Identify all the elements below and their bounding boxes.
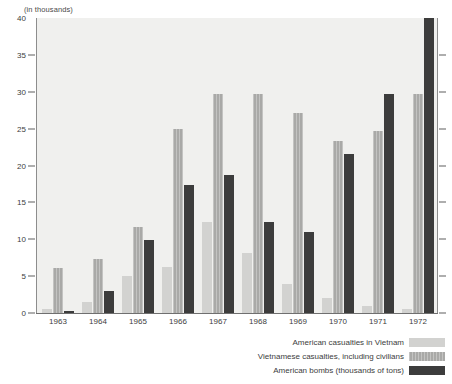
axis-line-baseline: [36, 313, 438, 314]
bar: [162, 267, 172, 313]
y-axis-tick-mark-right: [439, 128, 446, 129]
bar-group: [162, 18, 194, 313]
bar: [402, 309, 412, 313]
y-axis-caption: (in thousands): [24, 5, 73, 14]
y-axis-tick-label: 30: [2, 87, 26, 96]
bar: [424, 18, 434, 313]
y-axis-tick-mark: [28, 239, 35, 240]
y-axis-tick-label: 20: [2, 161, 26, 170]
bar: [122, 276, 132, 313]
axis-line-right: [437, 18, 438, 314]
bar: [242, 253, 252, 313]
legend-swatch: [409, 338, 445, 347]
y-axis-tick-label: 25: [2, 124, 26, 133]
y-axis-tick-mark-right: [439, 202, 446, 203]
legend-item-label: American bombs (thousands of tons): [273, 366, 404, 375]
bar: [64, 311, 74, 313]
bar: [224, 175, 234, 313]
bar-group: [362, 18, 394, 313]
y-axis-tick-mark: [28, 54, 35, 55]
chart-legend: American casualties in VietnamVietnamese…: [200, 336, 445, 378]
bar: [384, 94, 394, 313]
bar-group: [402, 18, 434, 313]
y-axis-tick-mark-right: [439, 313, 446, 314]
bar: [104, 291, 114, 313]
bar: [82, 302, 92, 313]
bar: [322, 298, 332, 313]
y-axis-tick-mark-right: [439, 165, 446, 166]
legend-item: American bombs (thousands of tons): [200, 364, 445, 377]
legend-item: American casualties in Vietnam: [200, 336, 445, 349]
y-axis-tick-mark-right: [439, 239, 446, 240]
y-axis-tick-label: 0: [2, 309, 26, 318]
legend-swatch: [409, 352, 445, 361]
legend-swatch: [409, 366, 445, 375]
bar: [53, 268, 63, 313]
y-axis-tick-label: 10: [2, 235, 26, 244]
bar-group: [122, 18, 154, 313]
bar: [42, 309, 52, 313]
legend-item-label: American casualties in Vietnam: [293, 338, 404, 347]
chart-root: (in thousands) 0510152025303540 19631964…: [0, 0, 452, 384]
y-axis-tick-mark: [28, 128, 35, 129]
bar: [373, 131, 383, 313]
y-axis-tick-label: 15: [2, 198, 26, 207]
bar: [264, 222, 274, 313]
y-axis-tick-mark: [28, 202, 35, 203]
bar-group: [42, 18, 74, 313]
bar: [304, 232, 314, 313]
y-axis-tick-mark-right: [439, 276, 446, 277]
bar: [253, 94, 263, 313]
bar: [202, 222, 212, 313]
y-axis-tick-label: 40: [2, 14, 26, 23]
legend-item-label: Vietnamese casualties, including civilia…: [258, 352, 404, 361]
bar: [333, 141, 343, 313]
bar: [413, 94, 423, 313]
y-axis-tick-mark: [28, 276, 35, 277]
y-axis-tick-mark: [28, 165, 35, 166]
bar: [173, 129, 183, 313]
bar: [93, 259, 103, 313]
bar: [344, 154, 354, 313]
y-axis-tick-mark: [28, 91, 35, 92]
legend-item: Vietnamese casualties, including civilia…: [200, 350, 445, 363]
bar: [184, 185, 194, 313]
bar-group: [202, 18, 234, 313]
bar: [144, 240, 154, 313]
bar-group: [322, 18, 354, 313]
bar: [133, 227, 143, 313]
y-axis-tick-mark-right: [439, 91, 446, 92]
bar-group: [242, 18, 274, 313]
x-axis-tick-label: 1972: [395, 317, 441, 326]
bar: [362, 306, 372, 313]
axis-line-left: [36, 18, 37, 314]
bar: [282, 284, 292, 314]
bar-group: [282, 18, 314, 313]
bar-group: [82, 18, 114, 313]
bar: [293, 113, 303, 313]
y-axis-tick-label: 35: [2, 50, 26, 59]
y-axis-tick-label: 5: [2, 272, 26, 281]
y-axis-tick-mark-right: [439, 54, 446, 55]
y-axis-tick-mark: [28, 313, 35, 314]
bar: [213, 94, 223, 313]
